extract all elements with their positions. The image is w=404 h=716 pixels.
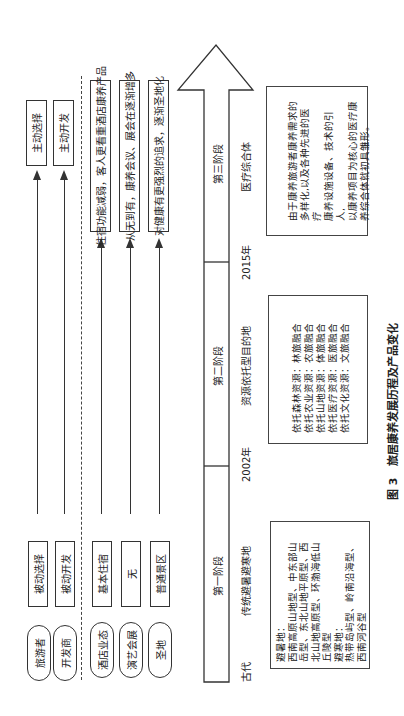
- figure-caption: 图 3 旅居康养发展历程及产品变化: [384, 323, 400, 500]
- stage-2-type: 资源依托型目的地: [238, 326, 253, 406]
- stage-1-type: 传统避暑避寒地: [238, 546, 253, 616]
- stage-3-label: 第三阶段: [210, 144, 225, 184]
- time-ancient: 古代: [238, 662, 253, 682]
- time-2002: 2002年: [238, 447, 253, 482]
- stage-2-label: 第二阶段: [210, 346, 225, 386]
- stage-1-label: 第一阶段: [210, 556, 225, 596]
- stage-3-description: 由于康养旅游者康养需求的 多样化,以及各种先进的医疗 康养设施设备、技术的引人,…: [266, 86, 368, 236]
- stage-2-description: 依托森林资源：林旅融合 依托农业资源：农旅融合 依托山地资源：体旅融合 依托医疗…: [268, 295, 368, 444]
- figure-canvas: 旅游者 开发商 酒店业态 演艺会展 圣地 被动选择 被动开发 基本住宿 无 普通…: [0, 0, 404, 716]
- stage-3-type: 医疗综合体: [238, 142, 253, 192]
- time-2015: 2015年: [238, 245, 253, 280]
- figure-title: 旅居康养发展历程及产品变化: [387, 323, 400, 466]
- figure-number: 图 3: [387, 478, 400, 500]
- stage-1-description: 避暑地： 西南高原山地型、中东部山 岳型、东北山地平原型、西 北山地高原型、环渤…: [270, 521, 370, 669]
